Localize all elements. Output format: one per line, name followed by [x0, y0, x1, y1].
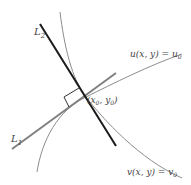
right-angle-marker — [64, 88, 79, 107]
L2-line — [40, 24, 116, 146]
level-curves-diagram: L2 u(x, y) = u0 (x0, y0) L1 v(x, y) = v0 — [0, 0, 191, 185]
u-level-curve — [37, 54, 182, 172]
L2-label: L2 — [33, 26, 46, 40]
point-label: (x0, y0) — [87, 95, 118, 106]
v-level-curve — [60, 12, 182, 178]
u-curve-label: u(x, y) = u0 — [130, 49, 182, 60]
L1-line — [12, 73, 116, 149]
v-curve-label: v(x, y) = v0 — [127, 167, 177, 178]
